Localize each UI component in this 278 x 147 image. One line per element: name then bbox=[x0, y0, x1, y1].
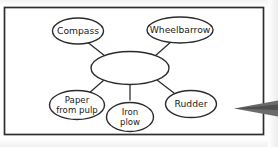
node-compass-label: Compass bbox=[57, 25, 99, 36]
node-rudder[interactable]: Rudder bbox=[166, 91, 217, 118]
node-wheelbarrow[interactable]: Wheelbarrow bbox=[147, 17, 213, 43]
node-iron-plow[interactable]: Iron plow bbox=[107, 103, 154, 132]
node-iron-plow-label-line1: Iron bbox=[122, 107, 139, 117]
concept-web-diagram: Compass Wheelbarrow Paper from pulp Iron… bbox=[0, 0, 278, 147]
node-paper-from-pulp-label-line1: Paper bbox=[65, 95, 90, 105]
screenshot-root: Compass Wheelbarrow Paper from pulp Iron… bbox=[0, 0, 278, 147]
node-iron-plow-label-line2: plow bbox=[120, 117, 140, 127]
node-rudder-label: Rudder bbox=[175, 98, 208, 109]
center-node[interactable] bbox=[91, 52, 169, 85]
node-wheelbarrow-label: Wheelbarrow bbox=[150, 24, 211, 35]
node-paper-from-pulp-label-line2: from pulp bbox=[56, 105, 97, 115]
node-compass[interactable]: Compass bbox=[53, 18, 104, 44]
node-paper-from-pulp[interactable]: Paper from pulp bbox=[50, 91, 105, 120]
